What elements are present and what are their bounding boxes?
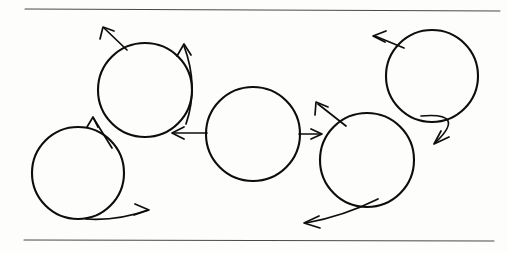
circle-5-upper-right	[386, 30, 478, 122]
arrow-circle2-upper-left-out-shaft	[104, 28, 127, 50]
arrow-circle4-upper-left-out-shaft	[318, 104, 346, 126]
circles-group	[32, 30, 478, 219]
rule-lines-group	[24, 9, 500, 241]
circle-2-upper-left	[98, 43, 192, 137]
arrow-circle2-upper-left-out-head-icon	[100, 27, 114, 39]
arrow-circle4-upper-left-out	[315, 102, 346, 126]
bottom-rule	[24, 240, 494, 241]
circle-3-center	[206, 87, 300, 181]
diagram-canvas	[0, 0, 507, 253]
circle-4-lower-right	[320, 113, 414, 207]
circle-1-left-low	[32, 127, 124, 219]
arrow-circle1-bottom-sweep-right	[86, 204, 149, 219]
figure-svg	[0, 0, 507, 253]
arrow-circle4-upper-left-out-head-icon	[315, 102, 328, 115]
arrow-circle2-upper-left-out	[100, 27, 127, 50]
top-rule	[25, 9, 500, 11]
arrow-circle4-bottom-sweep-left-shaft	[306, 199, 378, 223]
arrow-circle4-bottom-sweep-left	[304, 199, 378, 228]
arrow-circle3-to-circle4	[299, 129, 322, 139]
arrow-circle5-upper-left-out	[373, 31, 404, 48]
arrow-circle2-right-sweep-up	[177, 44, 192, 124]
arrow-circle1-to-circle2-head-icon	[87, 117, 98, 127]
arrow-circle3-to-circle2	[172, 127, 207, 139]
